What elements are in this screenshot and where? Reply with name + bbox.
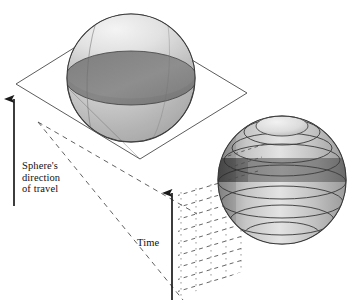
dashed-projection-lines xyxy=(38,122,197,300)
sliced-sphere-stack xyxy=(218,116,346,246)
figure-canvas: Sphere's direction of travel Time xyxy=(0,0,353,308)
time-label: Time xyxy=(137,237,159,249)
upper-sphere xyxy=(65,14,197,142)
sphere-direction-label: Sphere's direction of travel xyxy=(22,160,60,195)
sphere-spacetime-diagram xyxy=(0,0,353,308)
